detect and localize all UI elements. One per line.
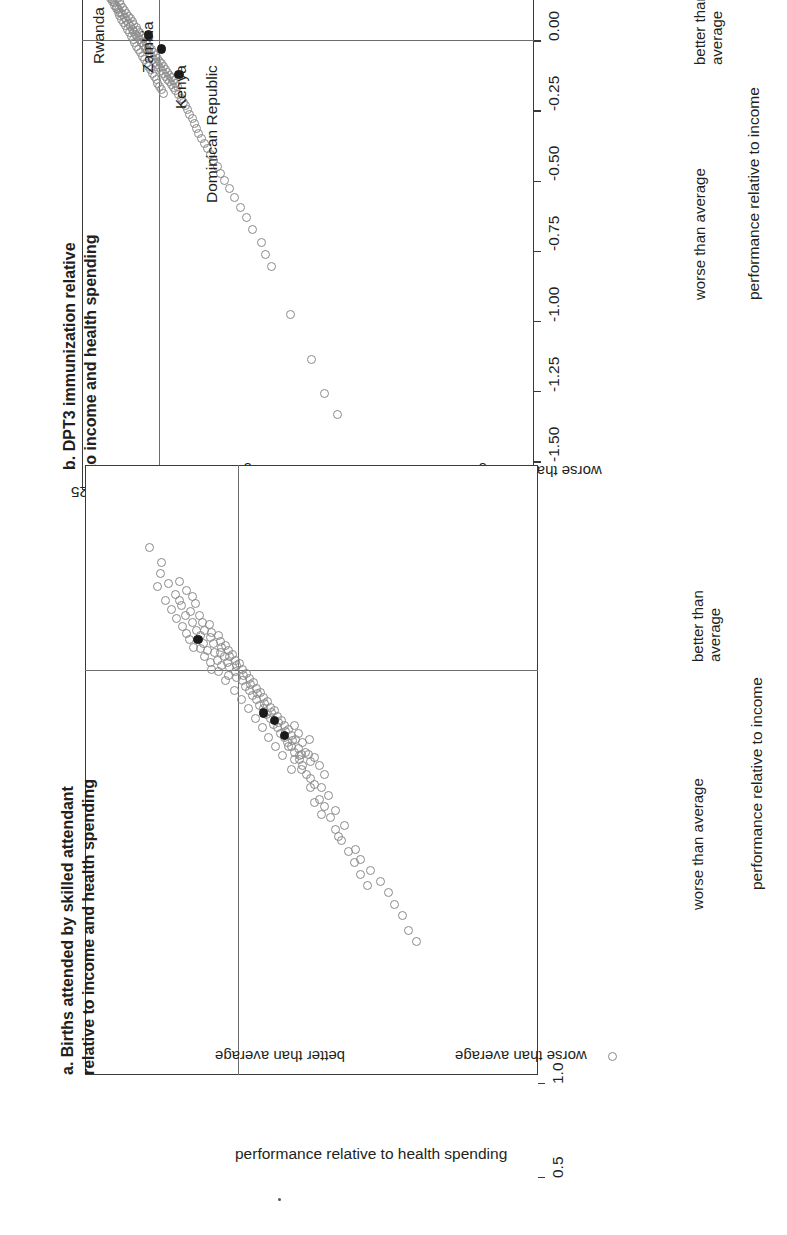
panel-a-x-axis-title: performance relative to income: [748, 677, 766, 890]
scatter-point: [390, 900, 399, 909]
scatter-point: [164, 579, 173, 588]
scatter-point: [230, 686, 239, 695]
point-label-kenya: Kenya: [172, 65, 190, 109]
scatter-point: [175, 596, 184, 605]
x-axis-tick-label: -0.75: [545, 216, 563, 251]
panel-a-rotated-canvas: [85, 465, 538, 1075]
scatter-point: [290, 755, 299, 764]
scatter-point: [205, 620, 214, 629]
scatter-point: [256, 688, 265, 697]
panel-b-rotated-canvas: [82, 0, 534, 490]
scatter-point: [237, 695, 246, 704]
scatter-point: [404, 926, 413, 935]
scatter-point: [230, 193, 239, 202]
scatter-point: [195, 611, 204, 620]
scatter-point: [242, 213, 251, 222]
panel-b-quadrant-x-better-line2: average: [708, 11, 725, 65]
x-axis-tick-label: 0.00: [545, 11, 563, 41]
point-label-dominican-republic: Dominican Republic: [203, 65, 221, 203]
x-axis-tick: [534, 251, 541, 252]
x-axis-tick: [534, 181, 541, 182]
x-axis-tick: [538, 1083, 545, 1084]
scatter-point: [320, 389, 329, 398]
scatter-point: [305, 735, 314, 744]
panel-b-title-line2: to income and health spending: [81, 40, 102, 470]
scatter-point: [294, 729, 303, 738]
panel-b-quadrant-x-better: better than average: [692, 0, 726, 65]
panel-a-quadrant-x-better: better than average: [690, 590, 724, 662]
panel-a-title-line1: a. Births attended by skilled attendant: [58, 635, 79, 1075]
scatter-point: [261, 250, 270, 259]
panel-a-quadrant-x-better-line1: better than: [689, 590, 706, 662]
x-axis-tick-label: -1.00: [545, 286, 563, 321]
scatter-point: [340, 821, 349, 830]
scatter-point: [236, 203, 245, 212]
scatter-point: [333, 410, 342, 419]
x-axis-tick: [534, 40, 541, 41]
x-axis-tick-label: -0.25: [545, 76, 563, 111]
panel-a-quadrant-x-worse: worse than average: [690, 778, 707, 910]
highlighted-point-zambia: [259, 708, 269, 718]
x-axis-tick: [534, 110, 541, 111]
scatter-point: [167, 605, 176, 614]
panel-a-title: a. Births attended by skilled attendant …: [58, 635, 100, 1075]
panel-a-births-skilled-attendant: -2.0-1.5-1.0-0.50.00.51.0 10-1-2 perform…: [0, 600, 787, 1235]
scatter-point: [290, 721, 299, 730]
scatter-point: [287, 765, 296, 774]
scatter-point: [267, 262, 276, 271]
point-label-zambia: Zambia: [139, 22, 157, 74]
scatter-point: [145, 543, 154, 552]
panel-b-x-axis-title: performance relative to income: [745, 87, 763, 300]
panel-a-sample-marker-icon: [608, 1052, 617, 1061]
highlighted-point-rwanda: [280, 731, 290, 741]
panel-b-title-line1: b. DPT3 immunization relative: [60, 40, 81, 470]
highlighted-point-dominican-republic: [193, 635, 203, 645]
panel-b-title: b. DPT3 immunization relative to income …: [60, 40, 102, 470]
scatter-point: [307, 355, 316, 364]
panel-a-quadrant-y-better: better than average: [215, 1047, 345, 1064]
panel-a-vertical-reference-line: [85, 670, 538, 671]
scatter-point: [161, 596, 170, 605]
x-axis-tick-label: -1.25: [545, 356, 563, 391]
scatter-point: [242, 669, 251, 678]
panel-b-quadrant-x-worse: worse than average: [692, 168, 709, 300]
panel-a-quadrant-y-worse: worse than average: [455, 1047, 587, 1064]
x-axis-tick: [534, 321, 541, 322]
x-axis-tick-label: 1.0: [549, 1062, 567, 1084]
scatter-point: [315, 761, 324, 770]
page-speck: [278, 1198, 281, 1201]
scatter-point: [221, 641, 230, 650]
x-axis-tick: [538, 1177, 545, 1178]
x-axis-tick-label: -1.50: [545, 427, 563, 462]
x-axis-tick-label: -0.50: [545, 146, 563, 181]
panel-b-quadrant-x-better-line1: better than: [691, 0, 708, 65]
scatter-point: [297, 765, 306, 774]
panel-a-plot-frame: [85, 465, 538, 1075]
panel-a-title-line2: relative to income and health spending: [79, 635, 100, 1075]
scatter-point: [251, 714, 260, 723]
scatter-point: [225, 184, 234, 193]
x-axis-tick-label: 0.5: [549, 1156, 567, 1178]
scatter-point: [258, 723, 267, 732]
panel-a-horizontal-reference-line: [238, 465, 239, 1075]
panel-a-y-axis-title: performance relative to health spending: [235, 1145, 507, 1163]
panel-a-quadrant-x-better-line2: average: [706, 608, 723, 662]
scatter-point: [159, 89, 168, 98]
x-axis-tick: [534, 391, 541, 392]
scatter-point: [284, 742, 293, 751]
